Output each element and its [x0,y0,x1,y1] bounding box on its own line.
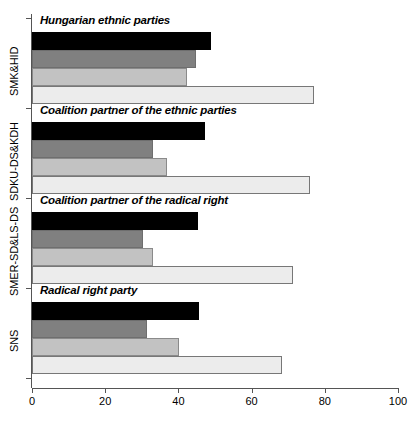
y-axis-tick [26,288,31,289]
bar-fill [32,266,293,284]
y-axis-category-label: SMK&HID [8,46,20,95]
bar-fill [32,248,153,266]
y-axis-category-label: SDKU-DS&KDH [8,122,20,201]
x-axis-tick-label: 100 [389,395,407,407]
x-axis-tick [325,388,326,393]
x-axis-tick [105,388,106,393]
x-axis-tick [252,388,253,393]
bar [32,212,198,230]
bar [32,320,147,338]
bar-fill [32,320,147,338]
bar [32,230,143,248]
y-axis-tick [26,18,31,19]
y-axis-tick [26,378,31,379]
bar-fill [32,122,205,140]
bar [32,266,293,284]
plot-area: Hungarian ethnic partiesCoalition partne… [32,14,398,388]
y-axis-category-label: SNS [8,330,20,352]
bar [32,32,211,50]
bar [32,50,196,68]
bar [32,140,153,158]
bar-fill [32,86,314,104]
bar [32,176,310,194]
group-annotation: Coalition partner of the radical right [40,194,228,206]
x-axis-tick-label: 40 [172,395,184,407]
x-axis-tick-label: 60 [245,395,257,407]
bar-fill [32,338,179,356]
bar [32,356,282,374]
y-axis-category-label: SMER-SD&LS-DS [8,206,20,295]
bar [32,86,314,104]
x-axis-tick-label: 0 [29,395,35,407]
bar-fill [32,50,196,68]
group-annotation: Hungarian ethnic parties [40,14,170,26]
bar [32,68,187,86]
bar-fill [32,212,198,230]
bar [32,122,205,140]
x-axis: 020406080100 [32,388,398,389]
x-axis-tick [32,388,33,393]
x-axis-tick [398,388,399,393]
y-axis-tick [26,108,31,109]
x-axis-tick-label: 20 [99,395,111,407]
bar [32,302,199,320]
bar [32,338,179,356]
group-annotation: Radical right party [40,284,137,296]
bar-fill [32,158,167,176]
bar-fill [32,32,211,50]
y-axis [31,14,32,388]
bar-fill [32,302,199,320]
bar-chart: Hungarian ethnic partiesCoalition partne… [0,0,419,434]
bar-fill [32,140,153,158]
bar-fill [32,176,310,194]
bar-fill [32,356,282,374]
bar [32,248,153,266]
group-annotation: Coalition partner of the ethnic parties [40,104,237,116]
x-axis-tick-label: 80 [319,395,331,407]
bar-fill [32,230,143,248]
bar-fill [32,68,187,86]
y-axis-tick [26,198,31,199]
bar [32,158,167,176]
x-axis-tick [178,388,179,393]
